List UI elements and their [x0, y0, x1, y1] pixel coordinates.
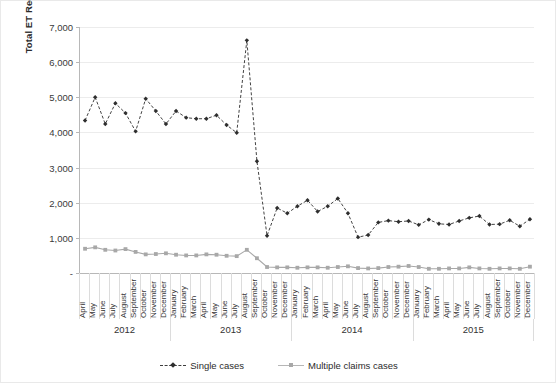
data-point: [93, 95, 97, 99]
x-tick-label: April: [322, 302, 330, 318]
year-label: 2015: [413, 324, 534, 335]
data-point: [346, 264, 350, 268]
data-point: [215, 253, 219, 257]
data-point: [498, 267, 502, 271]
x-tick-label: March: [190, 296, 198, 318]
x-tick-label: August: [120, 293, 128, 318]
x-tick-label: December: [403, 281, 411, 318]
data-point: [144, 96, 148, 100]
data-point: [477, 267, 481, 271]
data-point: [447, 222, 451, 226]
y-tick-label: 1,000: [49, 232, 73, 243]
data-point: [437, 267, 441, 271]
x-tick-label: June: [99, 301, 107, 318]
data-point: [225, 254, 229, 258]
data-point: [133, 129, 137, 133]
data-point: [366, 233, 370, 237]
x-tick-labels: AprilMayJuneJulyAugustSeptemberOctoberNo…: [79, 273, 534, 319]
data-point: [113, 101, 117, 105]
data-point: [194, 254, 198, 258]
data-point: [265, 234, 269, 238]
x-tick-label: November: [514, 281, 522, 318]
data-point: [467, 216, 471, 220]
data-point: [154, 252, 158, 256]
series-single-cases: [83, 38, 532, 239]
x-tick-label: July: [109, 304, 117, 318]
data-point: [336, 265, 340, 269]
data-point: [518, 267, 522, 271]
data-point: [204, 117, 208, 121]
x-tick-label: July: [473, 304, 481, 318]
data-point: [154, 109, 158, 113]
series-multiple-claims-cases: [83, 245, 532, 270]
data-point: [103, 248, 107, 252]
data-point: [508, 267, 512, 271]
x-tick: [534, 273, 535, 319]
y-tick-label: 5,000: [49, 92, 73, 103]
data-point: [356, 266, 360, 270]
data-point: [417, 265, 421, 269]
legend-marker-single-cases-icon: [160, 361, 186, 370]
x-tick-label: May: [89, 303, 97, 318]
data-point: [528, 265, 532, 269]
plot-area: -1,0002,0003,0004,0005,0006,0007,000: [79, 27, 534, 273]
data-point: [306, 265, 310, 269]
data-point: [356, 235, 360, 239]
data-point: [467, 265, 471, 269]
chart-legend: Single cases Multiple claims cases: [1, 356, 556, 374]
x-tick-label: May: [332, 303, 340, 318]
legend-item-multiple-claims-cases[interactable]: Multiple claims cases: [278, 360, 398, 371]
y-tick-label: 2,000: [49, 197, 73, 208]
year-label: 2013: [170, 324, 291, 335]
data-point: [245, 248, 249, 252]
x-tick-label: December: [524, 281, 532, 318]
data-point: [366, 267, 370, 271]
x-tick-label: February: [423, 286, 431, 318]
data-point: [224, 123, 228, 127]
x-tick-label: October: [261, 290, 269, 318]
x-tick-label: September: [251, 279, 259, 318]
data-point: [437, 222, 441, 226]
x-tick-label: April: [79, 302, 87, 318]
data-point: [427, 267, 431, 271]
data-point: [144, 252, 148, 256]
x-tick-label: August: [241, 293, 249, 318]
x-tick-label: January: [413, 290, 421, 318]
x-tick-label: November: [271, 281, 279, 318]
legend-marker-multiple-claims-cases-icon: [278, 361, 304, 370]
data-point: [123, 111, 127, 115]
legend-item-single-cases[interactable]: Single cases: [160, 360, 244, 371]
data-point: [164, 251, 168, 255]
data-point: [275, 265, 279, 269]
data-point: [457, 267, 461, 271]
data-point: [386, 218, 390, 222]
data-point: [265, 265, 269, 269]
data-point: [184, 115, 188, 119]
x-tick-label: December: [160, 281, 168, 318]
data-point: [255, 256, 259, 260]
data-point: [83, 118, 87, 122]
y-tick-label: 3,000: [49, 162, 73, 173]
data-point: [457, 219, 461, 223]
data-point: [326, 204, 330, 208]
x-tick-label: January: [170, 290, 178, 318]
chart-figure: Total ET Reciepts -1,0002,0003,0004,0005…: [0, 0, 556, 383]
x-tick-label: August: [484, 293, 492, 318]
y-tick-label: -: [70, 268, 73, 279]
x-tick-label: May: [211, 303, 219, 318]
x-tick-label: October: [140, 290, 148, 318]
data-point: [407, 264, 411, 268]
data-point: [194, 117, 198, 121]
x-tick-label: September: [372, 279, 380, 318]
x-tick-label: December: [281, 281, 289, 318]
data-point: [326, 266, 330, 270]
data-point: [174, 253, 178, 257]
x-tick-label: July: [352, 304, 360, 318]
data-point: [386, 265, 390, 269]
x-tick-label: September: [494, 279, 502, 318]
x-tick-label: February: [302, 286, 310, 318]
x-tick-label: September: [130, 279, 138, 318]
data-point: [275, 206, 279, 210]
x-tick-label: July: [231, 304, 239, 318]
data-point: [316, 265, 320, 269]
